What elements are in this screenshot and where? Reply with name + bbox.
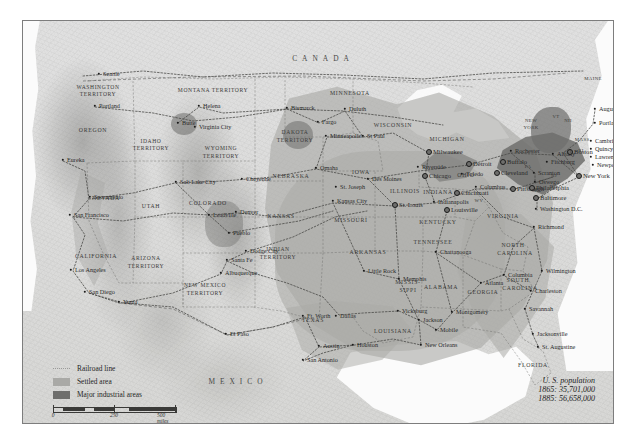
city-marker (494, 170, 500, 176)
city-marker (529, 185, 535, 191)
scale-tick (175, 405, 176, 413)
city-marker (392, 202, 398, 208)
population-note: U. S. population 1865: 35,701,000 1885: … (538, 376, 595, 403)
legend-swatch-industrial (53, 391, 70, 399)
population-1865: 1865: 35,701,000 (538, 385, 595, 394)
city-marker (510, 186, 516, 192)
scale-tick-label: 250 (110, 412, 118, 418)
legend-item-railroad: Railroad line (53, 362, 142, 375)
scale-fill (63, 407, 85, 411)
scale-tick-label: 500 miles (157, 412, 169, 424)
legend-railroad-swatch (53, 368, 70, 369)
scale-bars: 0250500 miles0250500 kilometers (53, 407, 175, 424)
legend-label: Settled area (77, 377, 112, 386)
city-marker (567, 149, 573, 155)
scale-tick-label: 0 (52, 412, 55, 418)
map-frame: SeattlePortlandEurekaSacramentoSan Franc… (22, 20, 614, 424)
scale-tick (53, 423, 54, 424)
population-title: U. S. population (538, 376, 595, 385)
scale-bar-miles: 0250500 miles (53, 407, 175, 417)
scale-fill (94, 407, 114, 411)
legend-label: Railroad line (77, 364, 115, 373)
city-marker (426, 149, 432, 155)
city-marker (422, 173, 428, 179)
scale-tick (151, 423, 152, 424)
city-marker (454, 190, 460, 196)
city-marker (500, 159, 506, 165)
legend-swatch-settled (53, 378, 70, 386)
scale-fill (129, 407, 175, 411)
legend-item-settled: Settled area (53, 375, 142, 388)
city-marker (533, 195, 539, 201)
city-marker (466, 161, 472, 167)
legend-label: Major industrial areas (77, 390, 142, 399)
city-marker (576, 173, 582, 179)
map-screenshot: SeattlePortlandEurekaSacramentoSan Franc… (0, 0, 634, 442)
city-marker (444, 207, 450, 213)
legend-item-industrial: Major industrial areas (53, 388, 142, 401)
legend: Railroad lineSettled areaMajor industria… (53, 362, 142, 401)
population-1885: 1885: 56,658,000 (538, 394, 595, 403)
scale-tick (102, 423, 103, 424)
